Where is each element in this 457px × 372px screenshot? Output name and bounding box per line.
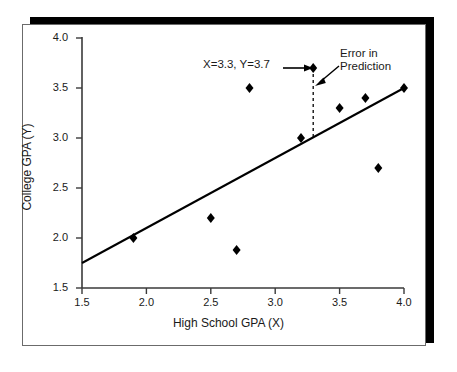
x-tick-label: 3.0 (257, 296, 293, 308)
x-tick-label: 3.5 (322, 296, 358, 308)
regression-line (82, 88, 404, 263)
data-point (207, 213, 215, 223)
x-tick-label: 1.5 (64, 296, 100, 308)
data-point (400, 83, 408, 93)
x-tick-label: 2.5 (193, 296, 229, 308)
error-label-leader-arrow (315, 66, 339, 86)
x-tick-label: 4.0 (386, 296, 422, 308)
data-point (233, 245, 241, 255)
data-point (336, 103, 344, 113)
y-tick-label: 2.0 (32, 231, 68, 243)
point-label-leader-arrow (283, 64, 313, 71)
y-axis-title: College GPA (Y) (20, 77, 34, 257)
axis-ticks (76, 38, 404, 294)
data-point (309, 63, 317, 73)
error-in-prediction-annotation: Error in Prediction (340, 47, 391, 73)
data-point (246, 83, 254, 93)
data-point (361, 93, 369, 103)
y-tick-label: 2.5 (32, 181, 68, 193)
axes (82, 37, 404, 288)
y-tick-label: 3.0 (32, 131, 68, 143)
x-axis-title: High School GPA (X) (0, 316, 457, 330)
y-tick-label: 4.0 (32, 31, 68, 43)
data-point-group (129, 63, 408, 255)
y-tick-label: 3.5 (32, 81, 68, 93)
error-annotation-line-2: Prediction (340, 60, 391, 73)
figure-root: 4.0 3.5 3.0 2.5 2.0 1.5 1.5 2.0 2.5 3.0 … (0, 0, 457, 372)
point-coordinate-annotation: X=3.3, Y=3.7 (203, 58, 270, 71)
y-tick-label: 1.5 (32, 281, 68, 293)
error-annotation-line-1: Error in (340, 47, 391, 60)
data-point (374, 163, 382, 173)
x-tick-label: 2.0 (128, 296, 164, 308)
